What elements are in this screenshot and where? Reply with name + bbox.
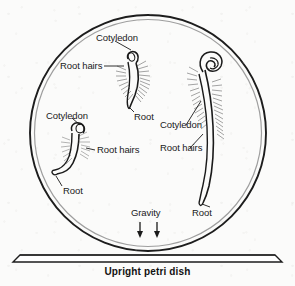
gravity-arrows xyxy=(137,222,160,238)
left-seedling-root-label: Root xyxy=(63,186,83,196)
left-seedling-seed xyxy=(76,124,84,133)
top-seedling xyxy=(104,41,150,112)
right-seedling-cotyledon-label: Cotyledon xyxy=(160,120,202,130)
left-seedling-root-tip xyxy=(52,170,57,175)
top-seedling-root-hairs xyxy=(116,61,150,102)
gravity-label: Gravity xyxy=(131,208,160,218)
gravity-arrow-left xyxy=(137,222,143,238)
top-seedling-root-hairs-label: Root hairs xyxy=(60,61,102,71)
right-seedling-root-hairs-label: Root hairs xyxy=(160,143,202,153)
gravity-arrow-right xyxy=(154,222,160,238)
left-seedling xyxy=(52,118,95,186)
left-seedling-cotyledon-label: Cotyledon xyxy=(46,111,88,121)
figure-caption: Upright petri dish xyxy=(0,266,295,277)
right-seedling-root-label: Root xyxy=(192,208,212,218)
top-seedling-cotyledon-label: Cotyledon xyxy=(96,33,138,43)
platform-slab xyxy=(13,255,282,262)
figure-drawing xyxy=(0,0,295,286)
petri-dish-figure: Cotyledon Root hairs Root Cotyledon Root… xyxy=(0,0,295,286)
left-root-hairs-leader xyxy=(86,148,95,150)
left-seedling-root-hairs-label: Root hairs xyxy=(97,145,139,155)
right-seedling-root-edge xyxy=(199,74,207,203)
right-seedling-root xyxy=(203,70,213,203)
left-root-leader xyxy=(56,176,62,186)
top-seedling-root xyxy=(130,63,138,107)
top-seedling-root-edge xyxy=(127,62,129,107)
slab-body xyxy=(13,255,282,262)
top-seedling-root-label: Root xyxy=(134,112,154,122)
